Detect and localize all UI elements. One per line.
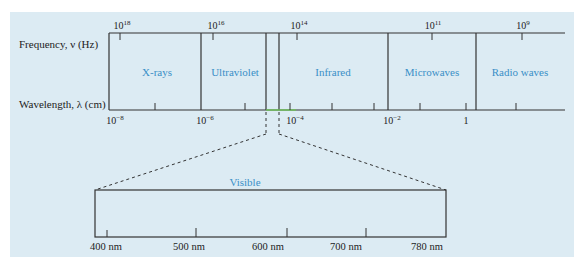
band-ultraviolet: Ultraviolet xyxy=(211,66,259,78)
wavelength-tick-label: 10−2 xyxy=(383,114,400,126)
visible-box xyxy=(95,190,446,237)
freq-tick-label: 109 xyxy=(516,19,530,31)
visible-tick-label: 700 nm xyxy=(330,241,362,252)
visible-tick-label: 780 nm xyxy=(411,241,443,252)
band-xrays: X-rays xyxy=(142,66,172,78)
visible-tick-label: 400 nm xyxy=(90,241,122,252)
band-radio-waves: Radio waves xyxy=(492,66,549,78)
freq-tick-label: 1016 xyxy=(208,19,225,31)
band-infrared: Infrared xyxy=(315,66,350,78)
wavelength-axis-label: Wavelength, λ (cm) xyxy=(19,98,106,110)
freq-tick-label: 1011 xyxy=(425,19,442,31)
visible-title: Visible xyxy=(229,176,260,188)
wavelength-tick-label: 10−4 xyxy=(286,114,303,126)
visible-tick-label: 600 nm xyxy=(252,241,284,252)
freq-tick-label: 1014 xyxy=(291,19,308,31)
frequency-axis-label: Frequency, ν (Hz) xyxy=(19,38,98,50)
wavelength-tick-label: 10−8 xyxy=(106,114,123,126)
wavelength-tick-label: 1 xyxy=(464,114,469,126)
band-microwaves: Microwaves xyxy=(405,66,459,78)
freq-tick-label: 1018 xyxy=(114,19,131,31)
wavelength-tick-label: 10−6 xyxy=(196,114,213,126)
visible-tick-label: 500 nm xyxy=(173,241,205,252)
